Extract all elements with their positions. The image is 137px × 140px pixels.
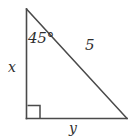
vertical-leg-label-x: x xyxy=(8,60,16,74)
hypotenuse-line xyxy=(27,9,128,119)
angle-label-45: 45° xyxy=(28,31,54,46)
right-angle-marker-icon xyxy=(28,106,41,119)
hypotenuse-label: 5 xyxy=(85,38,95,53)
triangle-drawing xyxy=(0,0,137,140)
geometry-figure: 45° 5 x y xyxy=(0,0,137,140)
horizontal-leg-label-y: y xyxy=(69,121,77,135)
